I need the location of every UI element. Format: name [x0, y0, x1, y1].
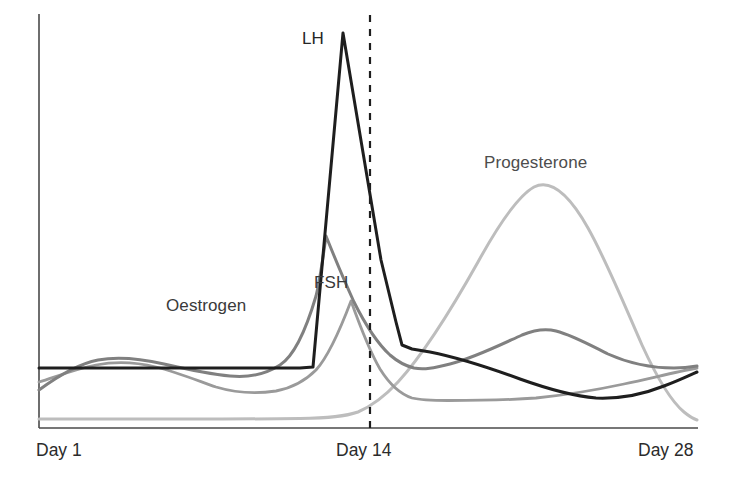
- series-line-progesterone: [39, 185, 697, 420]
- chart-canvas: [0, 0, 752, 488]
- series-label-lh: LH: [302, 29, 324, 49]
- series-label-progesterone: Progesterone: [484, 153, 587, 173]
- menstrual-cycle-hormone-chart: LH Oestrogen FSH Progesterone Day 1 Day …: [0, 0, 752, 488]
- x-tick-label-day-1: Day 1: [36, 440, 82, 461]
- series-label-oestrogen: Oestrogen: [166, 296, 246, 316]
- x-tick-label-day-14: Day 14: [336, 440, 391, 461]
- x-tick-label-day-28: Day 28: [638, 440, 693, 461]
- series-label-fsh: FSH: [314, 273, 348, 293]
